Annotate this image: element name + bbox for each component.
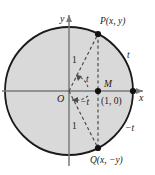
origin-label: O	[57, 93, 64, 104]
unit-circle-svg: y x O P(x, y) Q(x, −y) M (1, 0) 1 1 t −t…	[0, 0, 155, 175]
point-m-coords-label: (1, 0)	[101, 96, 122, 107]
upper-arc-t-label: t	[127, 50, 130, 60]
point-q-marker	[95, 145, 101, 151]
angle-minus-t-label: −t	[80, 97, 89, 107]
point-p-label: P(x, y)	[99, 16, 125, 27]
x-axis-label: x	[138, 92, 144, 103]
y-axis-label: y	[59, 13, 65, 24]
angle-t-label: t	[86, 74, 89, 84]
point-one-zero-marker	[130, 88, 136, 94]
point-m-marker	[95, 88, 101, 94]
lower-arc-minus-t-label: −t	[125, 123, 134, 133]
point-p-marker	[95, 31, 101, 37]
unit-circle-figure: y x O P(x, y) Q(x, −y) M (1, 0) 1 1 t −t…	[0, 0, 155, 175]
upper-radius-length-label: 1	[72, 55, 77, 65]
point-m-label: M	[103, 79, 113, 89]
lower-radius-length-label: 1	[72, 121, 77, 131]
point-q-label: Q(x, −y)	[90, 155, 123, 166]
